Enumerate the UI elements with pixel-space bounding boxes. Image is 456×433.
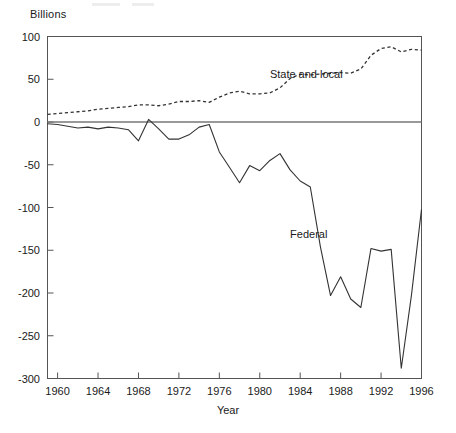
y-tick-label: -100 <box>0 202 40 214</box>
x-tick-label: 1964 <box>78 385 118 397</box>
x-tick-label: 1996 <box>402 385 442 397</box>
y-axis-unit-label: Billions <box>30 8 66 20</box>
plot-frame-group <box>48 37 422 379</box>
x-tick-label: 1976 <box>199 385 239 397</box>
x-tick-label: 1984 <box>280 385 320 397</box>
x-tick-label: 1992 <box>361 385 401 397</box>
series-path-state-and-local <box>48 47 422 115</box>
y-tick-label: -200 <box>0 287 40 299</box>
x-tick-label: 1988 <box>321 385 361 397</box>
x-tick-label: 1980 <box>240 385 280 397</box>
scan-artifact <box>132 3 154 6</box>
plot-canvas <box>0 0 456 433</box>
series-label-state-and-local: State and local <box>270 68 343 80</box>
chart-figure: Billions 100500-50-100-150-200-250-300 1… <box>0 0 456 433</box>
scan-artifact <box>92 3 120 6</box>
x-tick-marks <box>58 373 422 379</box>
y-tick-label: -300 <box>0 373 40 385</box>
y-tick-label: -150 <box>0 244 40 256</box>
y-tick-label: 100 <box>0 31 40 43</box>
x-tick-label: 1972 <box>159 385 199 397</box>
y-tick-label: 0 <box>0 116 40 128</box>
x-tick-label: 1960 <box>38 385 78 397</box>
y-tick-label: 50 <box>0 73 40 85</box>
plot-frame <box>48 37 422 379</box>
data-series-group <box>48 47 422 368</box>
series-path-federal <box>48 119 422 368</box>
x-tick-label: 1968 <box>118 385 158 397</box>
y-tick-marks <box>48 37 54 379</box>
series-label-federal: Federal <box>290 228 327 240</box>
x-axis-title: Year <box>0 404 456 416</box>
y-tick-label: -50 <box>0 159 40 171</box>
y-tick-label: -250 <box>0 330 40 342</box>
